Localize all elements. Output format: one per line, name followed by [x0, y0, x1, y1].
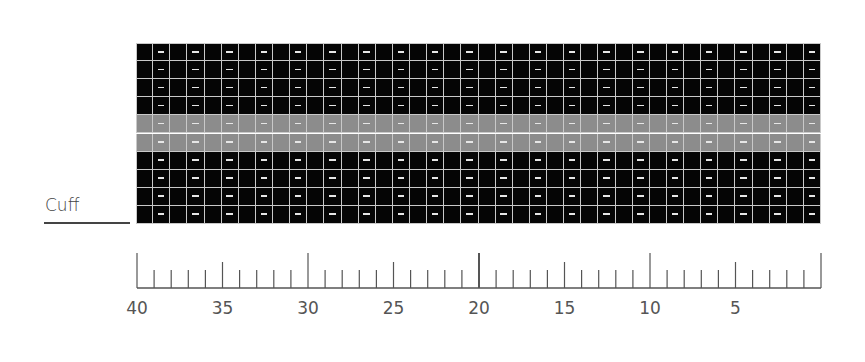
- ruler-label: 10: [639, 298, 661, 318]
- ruler-label: 15: [554, 298, 576, 318]
- ruler-label: 20: [468, 298, 490, 318]
- ruler-label: 5: [730, 298, 741, 318]
- ruler-label: 30: [297, 298, 319, 318]
- ruler-label: 40: [126, 298, 148, 318]
- ruler-label: 35: [212, 298, 234, 318]
- ruler-label: 25: [383, 298, 405, 318]
